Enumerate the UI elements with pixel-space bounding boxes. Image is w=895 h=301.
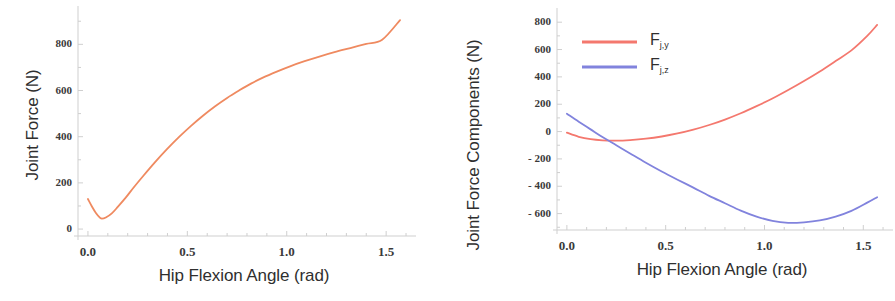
- y-tick-label: 800: [32, 37, 72, 49]
- series-line-joint-force: [88, 20, 400, 219]
- y-tick-label: 600: [32, 84, 72, 96]
- x-tick-label: 1.5: [838, 238, 888, 254]
- series-line-f-j-z: [567, 114, 877, 223]
- y-tick-label: 200: [511, 97, 551, 109]
- x-tick-label: 0.5: [641, 238, 691, 254]
- y-tick-label: 400: [32, 130, 72, 142]
- y-tick-label: 0: [511, 125, 551, 137]
- y-tick-label: 0: [32, 222, 72, 234]
- y-tick-label: - 200: [511, 152, 551, 164]
- legend-label-main: F: [650, 31, 660, 48]
- left-x-axis-title: Hip Flexion Angle (rad): [58, 266, 430, 286]
- y-tick-label: - 600: [511, 207, 551, 219]
- y-tick-label: 400: [511, 70, 551, 82]
- figure-two-panel-line-charts: Joint Force (N) 02004006008000.00.51.01.…: [0, 0, 895, 301]
- legend-label-subscript: j,y: [660, 40, 669, 50]
- legend-label-j-y: Fj,y: [650, 31, 669, 49]
- right-x-axis-title: Hip Flexion Angle (rad): [537, 260, 895, 280]
- legend-label-subscript: j,z: [660, 65, 669, 75]
- x-tick-label: 1.0: [262, 244, 312, 260]
- legend-label-j-z: Fj,z: [650, 56, 669, 74]
- panel-joint-force: Joint Force (N) 02004006008000.00.51.01.…: [0, 0, 447, 301]
- x-tick-label: 0.5: [162, 244, 212, 260]
- x-tick-label: 1.5: [361, 244, 411, 260]
- y-tick-label: 200: [32, 176, 72, 188]
- x-tick-label: 0.0: [63, 244, 113, 260]
- legend-label-main: F: [650, 56, 660, 73]
- x-tick-label: 1.0: [739, 238, 789, 254]
- y-tick-label: - 400: [511, 179, 551, 191]
- y-tick-label: 800: [511, 15, 551, 27]
- x-tick-label: 0.0: [542, 238, 592, 254]
- panel-joint-force-components: Joint Force Components (N) 8006004002000…: [447, 0, 895, 301]
- y-tick-label: 600: [511, 43, 551, 55]
